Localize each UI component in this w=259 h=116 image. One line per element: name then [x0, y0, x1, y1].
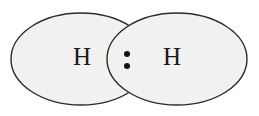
- shared-electron-dot-bottom: [124, 63, 130, 69]
- left-hydrogen-label: H: [73, 43, 91, 70]
- right-hydrogen-label: H: [163, 43, 181, 70]
- h2-lewis-diagram: H H: [0, 0, 259, 116]
- shared-electron-dot-top: [124, 51, 130, 57]
- overlapping-orbitals-figure: H H: [0, 0, 259, 116]
